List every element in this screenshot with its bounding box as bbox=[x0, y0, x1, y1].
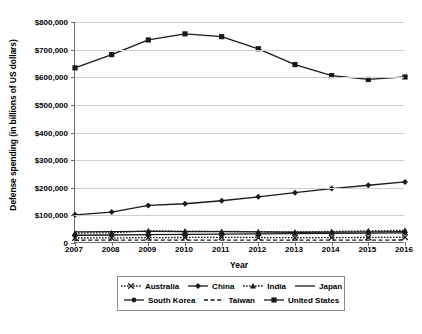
legend-key-icon bbox=[123, 295, 145, 305]
data-point bbox=[146, 232, 151, 237]
legend-item-china[interactable]: China bbox=[187, 281, 234, 291]
y-axis-tick-mark bbox=[71, 22, 75, 23]
data-point bbox=[146, 37, 151, 42]
series-line bbox=[75, 34, 405, 80]
gridline bbox=[75, 133, 404, 134]
legend-key-icon bbox=[242, 281, 264, 291]
y-axis-tick-label: $400,000 bbox=[35, 128, 68, 137]
y-axis-tick-mark bbox=[71, 133, 75, 134]
defense-spending-line-chart: Defense spending (in billions of US doll… bbox=[0, 0, 422, 334]
legend-key-icon bbox=[203, 295, 225, 305]
gridline bbox=[75, 50, 404, 51]
y-axis-tick-mark bbox=[71, 160, 75, 161]
plot-area bbox=[74, 22, 404, 243]
legend-item-japan[interactable]: Japan bbox=[294, 281, 342, 291]
x-axis-title: Year bbox=[74, 260, 404, 270]
data-point bbox=[219, 34, 224, 39]
x-axis-tick-label: 2016 bbox=[395, 245, 413, 254]
y-axis-tick-label: $600,000 bbox=[35, 73, 68, 82]
data-point bbox=[109, 209, 115, 215]
x-axis-tick-labels: 2007200820092010201120122013201420152016 bbox=[74, 245, 404, 259]
legend-item-south-korea[interactable]: South Korea bbox=[123, 295, 196, 305]
data-point bbox=[219, 198, 225, 204]
x-axis-tick-label: 2010 bbox=[175, 245, 193, 254]
gridline bbox=[75, 188, 404, 189]
legend-key-icon bbox=[120, 281, 142, 291]
y-axis-tick-label: $500,000 bbox=[35, 100, 68, 109]
legend-label: Japan bbox=[319, 282, 342, 291]
gridline bbox=[75, 77, 404, 78]
y-axis-tick-mark bbox=[71, 105, 75, 106]
gridline bbox=[75, 105, 404, 106]
y-axis-tick-mark bbox=[71, 50, 75, 51]
legend-row: AustraliaChinaIndiaJapan bbox=[122, 279, 340, 293]
y-axis-tick-labels: $800,000$700,000$600,000$500,000$400,000… bbox=[20, 0, 72, 258]
x-axis-tick-label: 2007 bbox=[65, 245, 83, 254]
plot-wrapper: $800,000$700,000$600,000$500,000$400,000… bbox=[0, 0, 422, 258]
legend-label: United States bbox=[288, 296, 339, 305]
data-point bbox=[72, 65, 77, 70]
series-united-states bbox=[72, 31, 407, 82]
gridline bbox=[75, 22, 404, 23]
x-axis-tick-label: 2015 bbox=[358, 245, 376, 254]
legend-key-icon bbox=[263, 295, 285, 305]
x-axis-tick-label: 2014 bbox=[322, 245, 340, 254]
y-axis-tick-label: $700,000 bbox=[35, 45, 68, 54]
legend-label: South Korea bbox=[148, 296, 196, 305]
legend-item-india[interactable]: India bbox=[242, 281, 286, 291]
y-axis-tick-mark bbox=[71, 215, 75, 216]
data-point bbox=[403, 230, 408, 235]
chart-legend: AustraliaChinaIndiaJapanSouth KoreaTaiwa… bbox=[117, 276, 345, 311]
y-axis-tick-label: $800,000 bbox=[35, 18, 68, 27]
x-axis-tick-label: 2011 bbox=[212, 245, 229, 254]
legend-key-icon bbox=[187, 281, 209, 291]
data-point bbox=[109, 233, 114, 238]
series-china bbox=[72, 179, 408, 218]
data-point bbox=[293, 231, 298, 236]
gridline bbox=[75, 160, 404, 161]
legend-label: India bbox=[267, 282, 286, 291]
data-point bbox=[183, 232, 188, 237]
data-point bbox=[109, 52, 114, 57]
series-japan bbox=[75, 231, 405, 232]
data-point bbox=[182, 201, 188, 207]
data-point bbox=[402, 179, 408, 185]
data-point bbox=[182, 31, 187, 36]
legend-item-australia[interactable]: Australia bbox=[120, 281, 179, 291]
y-axis-tick-mark bbox=[71, 77, 75, 78]
series-line bbox=[75, 231, 405, 232]
y-axis-tick-label: $300,000 bbox=[35, 156, 68, 165]
x-axis-tick-label: 2008 bbox=[102, 245, 120, 254]
series-line bbox=[75, 233, 405, 235]
data-point bbox=[292, 62, 297, 67]
x-axis-tick-label: 2013 bbox=[285, 245, 303, 254]
legend-label: Australia bbox=[145, 282, 179, 291]
data-point bbox=[255, 194, 261, 200]
legend-key-icon bbox=[294, 281, 316, 291]
y-axis-tick-label: $200,000 bbox=[35, 183, 68, 192]
data-point bbox=[256, 231, 261, 236]
data-point bbox=[292, 190, 298, 196]
data-point bbox=[145, 202, 151, 208]
gridline bbox=[75, 215, 404, 216]
x-axis-tick-label: 2012 bbox=[248, 245, 266, 254]
series-line bbox=[75, 237, 405, 238]
data-point bbox=[73, 233, 78, 238]
x-axis-tick-label: 2009 bbox=[138, 245, 156, 254]
legend-label: Taiwan bbox=[228, 296, 255, 305]
legend-row: South KoreaTaiwanUnited States bbox=[122, 293, 340, 307]
legend-item-taiwan[interactable]: Taiwan bbox=[203, 295, 255, 305]
data-point bbox=[219, 232, 224, 237]
y-axis-tick-label: $100,000 bbox=[35, 211, 68, 220]
y-axis-tick-mark bbox=[71, 188, 75, 189]
legend-label: China bbox=[212, 282, 234, 291]
data-point bbox=[329, 231, 334, 236]
data-point bbox=[366, 231, 371, 236]
legend-item-united-states[interactable]: United States bbox=[263, 295, 339, 305]
